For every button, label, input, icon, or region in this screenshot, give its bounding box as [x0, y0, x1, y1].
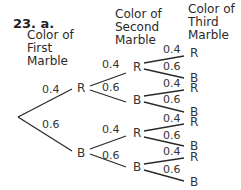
prob-l3-7: 0.4	[163, 146, 181, 157]
prob-l3-3: 0.4	[163, 78, 181, 89]
node-l2-3: R	[133, 127, 141, 139]
node-l2-4: B	[133, 161, 141, 173]
header-third-line3: Marble	[188, 29, 229, 42]
prob-l3-8: 0.6	[163, 164, 181, 175]
node-l2-1: R	[133, 61, 141, 73]
header-first-line3: Marble	[27, 55, 68, 68]
node-l3-5: R	[190, 116, 198, 128]
prob-l2-4: 0.6	[102, 150, 120, 161]
node-l1-r: R	[77, 82, 85, 94]
prob-l2-2: 0.6	[102, 82, 120, 93]
prob-l3-6: 0.6	[163, 130, 181, 141]
header-second-line3: Marble	[115, 34, 156, 47]
node-l3-3: R	[190, 82, 198, 94]
node-l3-8: B	[190, 176, 198, 188]
prob-l2-3: 0.4	[102, 124, 120, 135]
node-l2-2: B	[133, 94, 141, 106]
prob-l2-1: 0.4	[102, 59, 120, 70]
node-l1-b: B	[77, 147, 85, 159]
prob-l3-5: 0.4	[163, 113, 181, 124]
prob-l1-b: 0.6	[42, 119, 60, 130]
prob-l3-1: 0.4	[163, 44, 181, 55]
node-l3-7: R	[190, 151, 198, 163]
prob-l3-4: 0.6	[163, 94, 181, 105]
node-l3-1: R	[190, 47, 198, 59]
prob-l1-r: 0.4	[42, 84, 60, 95]
prob-l3-2: 0.6	[163, 61, 181, 72]
